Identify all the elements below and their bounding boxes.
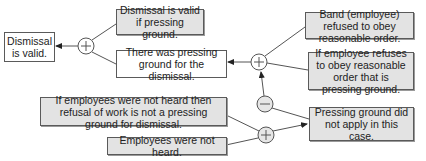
plus-icon [251,54,267,70]
plus-icon [78,38,94,54]
minus-icon [257,96,273,112]
connector-nodes [0,0,426,161]
plus-icon [258,127,274,143]
